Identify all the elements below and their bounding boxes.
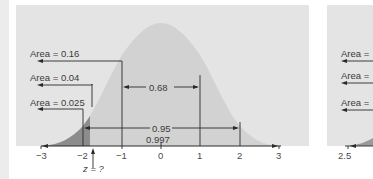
label-span-068: 0.68: [149, 82, 168, 93]
label-area-0025: Area = 0.025: [30, 97, 85, 108]
label-area-004: Area = 0.04: [30, 72, 79, 83]
normal-distribution-figure: Area = 0.16 Area = 0.04 Area = 0.025 0.6…: [0, 0, 373, 179]
arrowhead-up-icon: [91, 148, 95, 154]
tick-label-neg2: −2: [77, 150, 88, 161]
right-label-area-2: Area =: [341, 70, 370, 81]
tick-label-1: 1: [197, 150, 202, 161]
label-span-095: 0.95: [152, 123, 171, 134]
right-label-area-3: Area =: [341, 97, 370, 108]
tick-label-0: 0: [158, 150, 163, 161]
label-z-question: z = ?: [82, 163, 105, 174]
tick-label-neg1: −1: [116, 150, 127, 161]
tick-label-3: 3: [276, 150, 281, 161]
tick-label-2: 2: [237, 150, 242, 161]
right-label-area-1: Area =: [341, 48, 370, 59]
right-tick-label-2-5: 2.5: [338, 150, 351, 161]
side-strip: [0, 0, 9, 179]
label-span-0997: 0.997: [146, 134, 170, 145]
label-area-016: Area = 0.16: [30, 48, 79, 59]
tick-label-neg3: −3: [36, 150, 47, 161]
